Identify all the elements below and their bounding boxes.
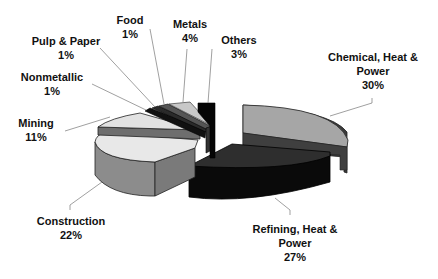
label-percent: 22% (26, 228, 116, 242)
label-percent: 27% (240, 250, 350, 264)
label-percent: 3% (218, 47, 260, 61)
label-name: Chemical, Heat & (318, 50, 428, 64)
label-name: Others (218, 33, 260, 47)
label-percent: 30% (318, 78, 428, 92)
label-percent: 4% (168, 31, 212, 45)
label-name-cont: Power (318, 64, 428, 78)
label-name: Metals (168, 17, 212, 31)
label-nonmetallic: Nonmetallic 1% (20, 70, 84, 98)
label-percent: 1% (28, 48, 104, 62)
label-metals: Metals 4% (168, 17, 212, 45)
label-name-cont: Power (240, 236, 350, 250)
label-name: Refining, Heat & (240, 222, 350, 236)
label-percent: 11% (14, 130, 58, 144)
label-name: Pulp & Paper (28, 34, 104, 48)
label-refining-heat-power: Refining, Heat & Power 27% (240, 222, 350, 264)
label-percent: 1% (20, 84, 84, 98)
label-pulp-paper: Pulp & Paper 1% (28, 34, 104, 62)
label-name: Food (112, 13, 148, 27)
label-percent: 1% (112, 27, 148, 41)
label-name: Nonmetallic (20, 70, 84, 84)
label-chemical-heat-power: Chemical, Heat & Power 30% (318, 50, 428, 92)
label-food: Food 1% (112, 13, 148, 41)
label-others: Others 3% (218, 33, 260, 61)
label-name: Construction (26, 214, 116, 228)
slice-construction (95, 132, 198, 196)
label-mining: Mining 11% (14, 116, 58, 144)
label-construction: Construction 22% (26, 214, 116, 242)
label-name: Mining (14, 116, 58, 130)
